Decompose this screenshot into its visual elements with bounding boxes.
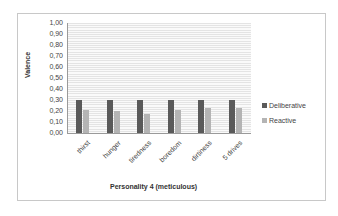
plot-area bbox=[67, 23, 251, 134]
x-axis-label: Personality 4 (meticulous) bbox=[110, 183, 197, 190]
bar-deliberative bbox=[229, 100, 235, 133]
legend-swatch-icon bbox=[262, 118, 267, 123]
legend: DeliberativeReactive bbox=[262, 98, 306, 128]
y-tick-label: 0,70 bbox=[33, 52, 63, 59]
y-axis-label: Valence bbox=[24, 52, 31, 78]
legend-swatch-icon bbox=[262, 103, 267, 108]
bar-reactive bbox=[236, 108, 242, 133]
bar-deliberative bbox=[168, 100, 174, 133]
legend-label: Reactive bbox=[269, 117, 296, 124]
bar-reactive bbox=[83, 110, 89, 133]
y-tick-label: 0,10 bbox=[33, 118, 63, 125]
y-tick-label: 0,20 bbox=[33, 107, 63, 114]
bar-reactive bbox=[175, 110, 181, 133]
y-tick-label: 0,60 bbox=[33, 63, 63, 70]
bar-reactive bbox=[205, 108, 211, 133]
legend-item: Deliberative bbox=[262, 98, 306, 113]
y-tick-label: 0,50 bbox=[33, 74, 63, 81]
bar-deliberative bbox=[198, 100, 204, 133]
y-tick-label: 1,00 bbox=[33, 19, 63, 26]
legend-item: Reactive bbox=[262, 113, 306, 128]
bar-reactive bbox=[114, 111, 120, 133]
y-tick-label: 0,30 bbox=[33, 96, 63, 103]
y-tick-label: 0,00 bbox=[33, 129, 63, 136]
y-tick-label: 0,40 bbox=[33, 85, 63, 92]
bar-deliberative bbox=[137, 100, 143, 133]
y-tick-label: 0,80 bbox=[33, 41, 63, 48]
legend-label: Deliberative bbox=[269, 102, 306, 109]
bar-deliberative bbox=[76, 100, 82, 133]
bar-deliberative bbox=[107, 100, 113, 133]
y-tick-label: 0,90 bbox=[33, 30, 63, 37]
bar-reactive bbox=[144, 114, 150, 133]
